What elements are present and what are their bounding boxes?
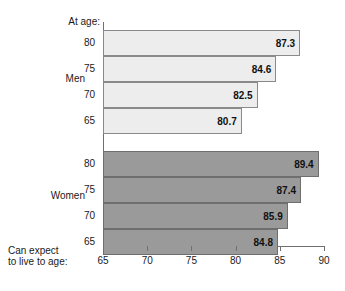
x-axis-title-line1: Can expect [8,245,67,256]
age-tick-label-women-65: 65 [73,236,95,247]
age-tick-label-men-70: 70 [73,89,95,100]
bar-women-age-80: 89.4 [103,151,319,177]
age-tick-label-women-80: 80 [73,158,95,169]
y-axis-title: At age: [68,16,100,27]
age-tick-label-men-65: 65 [73,115,95,126]
bar-men-age-75: 84.6 [103,56,276,82]
bar-value-label: 80.7 [217,116,236,127]
age-tick-label-men-75: 75 [73,63,95,74]
x-tick-75 [191,246,192,251]
bar-value-label: 89.4 [294,159,313,170]
life-expectancy-bar-chart: At age: Can expect to live to age: Men W… [0,0,345,291]
x-tick-label-65: 65 [91,255,115,266]
age-tick-label-women-70: 70 [73,210,95,221]
x-tick-label-85: 85 [268,255,292,266]
x-tick-65 [103,246,104,251]
x-tick-70 [147,246,148,251]
bar-value-label: 84.6 [252,64,271,75]
bar-men-age-70: 82.5 [103,82,258,108]
group-label-men: Men [25,73,85,84]
bar-value-label: 87.4 [277,185,296,196]
bar-men-age-65: 80.7 [103,108,242,134]
bar-value-label: 85.9 [263,211,282,222]
bar-women-age-75: 87.4 [103,177,301,203]
x-tick-label-90: 90 [312,255,336,266]
age-tick-label-women-75: 75 [73,184,95,195]
bar-women-age-70: 85.9 [103,203,288,229]
x-tick-label-80: 80 [224,255,248,266]
bar-men-age-80: 87.3 [103,30,300,56]
bar-women-age-65: 84.8 [103,229,278,255]
bar-value-label: 82.5 [233,90,252,101]
age-tick-label-men-80: 80 [73,37,95,48]
x-axis-title-line2: to live to age: [8,256,67,267]
x-axis-title: Can expect to live to age: [8,245,67,267]
bar-value-label: 87.3 [276,38,295,49]
x-tick-label-75: 75 [179,255,203,266]
x-tick-80 [236,246,237,251]
x-tick-85 [280,246,281,251]
bar-value-label: 84.8 [254,237,273,248]
x-tick-label-70: 70 [135,255,159,266]
x-tick-90 [324,246,325,251]
